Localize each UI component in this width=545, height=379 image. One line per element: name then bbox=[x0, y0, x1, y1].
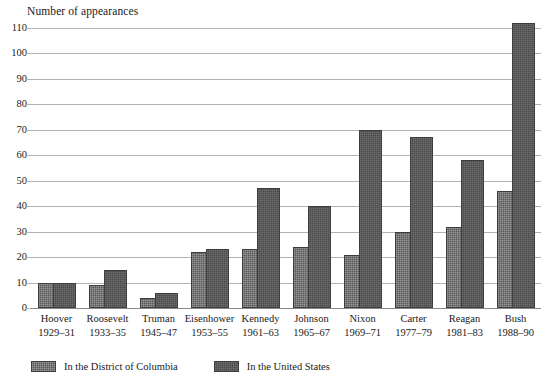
legend-label: In the United States bbox=[247, 361, 330, 372]
x-axis-label-years: 1961–63 bbox=[235, 326, 286, 340]
bar-group bbox=[286, 28, 337, 308]
y-tick: 110 bbox=[0, 23, 27, 34]
gridline bbox=[31, 308, 541, 309]
bar-united-states bbox=[104, 270, 127, 308]
x-axis-label-name: Hoover bbox=[31, 312, 82, 326]
y-tick-label: 70 bbox=[3, 125, 27, 135]
x-axis-label-years: 1953–55 bbox=[184, 326, 235, 340]
x-axis-label-years: 1981–83 bbox=[439, 326, 490, 340]
legend-item: In the District of Columbia bbox=[31, 361, 178, 372]
x-axis-label: Hoover1929–31 bbox=[31, 312, 82, 339]
legend-label: In the District of Columbia bbox=[64, 361, 178, 372]
bar-united-states bbox=[359, 130, 382, 308]
chart-axis-title: Number of appearances bbox=[27, 5, 138, 17]
bar-united-states bbox=[257, 188, 280, 308]
x-axis-label-years: 1929–31 bbox=[31, 326, 82, 340]
x-axis-label: Reagan1981–83 bbox=[439, 312, 490, 339]
y-tick-label: 100 bbox=[3, 48, 27, 58]
legend-swatch-us bbox=[214, 361, 239, 372]
x-axis-label: Kennedy1961–63 bbox=[235, 312, 286, 339]
bar-group bbox=[235, 28, 286, 308]
y-tick-label: 20 bbox=[3, 252, 27, 262]
y-tick-label: 90 bbox=[3, 74, 27, 84]
y-tick: 40 bbox=[0, 201, 27, 212]
x-axis-label: Nixon1969–71 bbox=[337, 312, 388, 339]
bar-chart: Number of appearances 010203040506070809… bbox=[0, 0, 545, 379]
y-axis-ticks: 0102030405060708090100110 bbox=[0, 28, 27, 308]
y-tick: 0 bbox=[0, 303, 27, 314]
bar-group bbox=[388, 28, 439, 308]
bar-group bbox=[337, 28, 388, 308]
y-tick-label: 50 bbox=[3, 176, 27, 186]
y-tick-label: 40 bbox=[3, 201, 27, 211]
x-axis-label: Bush1988–90 bbox=[490, 312, 541, 339]
y-tick: 20 bbox=[0, 252, 27, 263]
x-axis-label-name: Johnson bbox=[286, 312, 337, 326]
bar-group bbox=[439, 28, 490, 308]
y-tick-label: 110 bbox=[3, 23, 27, 33]
bar-layer bbox=[31, 28, 541, 308]
bar-united-states bbox=[155, 293, 178, 308]
x-axis-label-name: Roosevelt bbox=[82, 312, 133, 326]
y-tick-label: 10 bbox=[3, 278, 27, 288]
x-axis-label-years: 1965–67 bbox=[286, 326, 337, 340]
bar-united-states bbox=[461, 160, 484, 308]
x-axis-label-years: 1933–35 bbox=[82, 326, 133, 340]
y-tick: 50 bbox=[0, 176, 27, 187]
y-tick: 90 bbox=[0, 74, 27, 85]
x-axis-label: Roosevelt1933–35 bbox=[82, 312, 133, 339]
y-tick-label: 0 bbox=[3, 303, 27, 313]
legend-swatch-dc bbox=[31, 361, 56, 372]
legend-item: In the United States bbox=[214, 361, 330, 372]
x-axis-label-name: Eisenhower bbox=[184, 312, 235, 326]
y-tick: 10 bbox=[0, 278, 27, 289]
x-axis-label-years: 1969–71 bbox=[337, 326, 388, 340]
y-tick: 70 bbox=[0, 125, 27, 136]
y-tick-label: 30 bbox=[3, 227, 27, 237]
x-axis-label-years: 1977–79 bbox=[388, 326, 439, 340]
y-tick: 30 bbox=[0, 227, 27, 238]
y-tick: 80 bbox=[0, 99, 27, 110]
x-axis-label: Carter1977–79 bbox=[388, 312, 439, 339]
x-axis-label-years: 1988–90 bbox=[490, 326, 541, 340]
x-axis-label: Truman1945–47 bbox=[133, 312, 184, 339]
x-axis-label-name: Reagan bbox=[439, 312, 490, 326]
x-axis-label-name: Truman bbox=[133, 312, 184, 326]
bar-united-states bbox=[410, 137, 433, 308]
x-axis-label-name: Carter bbox=[388, 312, 439, 326]
y-tick: 60 bbox=[0, 150, 27, 161]
x-axis-label-name: Kennedy bbox=[235, 312, 286, 326]
bar-united-states bbox=[308, 206, 331, 308]
x-axis-label: Eisenhower1953–55 bbox=[184, 312, 235, 339]
bar-group bbox=[490, 28, 541, 308]
bar-united-states bbox=[53, 283, 76, 308]
chart-legend: In the District of ColumbiaIn the United… bbox=[31, 356, 330, 376]
x-axis-label-years: 1945–47 bbox=[133, 326, 184, 340]
bar-united-states bbox=[512, 23, 535, 308]
x-axis-label-name: Bush bbox=[490, 312, 541, 326]
x-axis-label-name: Nixon bbox=[337, 312, 388, 326]
bar-group bbox=[184, 28, 235, 308]
bar-group bbox=[82, 28, 133, 308]
bar-group bbox=[31, 28, 82, 308]
x-axis-labels: Hoover1929–31Roosevelt1933–35Truman1945–… bbox=[31, 312, 541, 346]
y-tick-label: 60 bbox=[3, 150, 27, 160]
x-axis-label: Johnson1965–67 bbox=[286, 312, 337, 339]
bar-group bbox=[133, 28, 184, 308]
bar-united-states bbox=[206, 249, 229, 308]
y-tick-label: 80 bbox=[3, 99, 27, 109]
y-tick: 100 bbox=[0, 48, 27, 59]
